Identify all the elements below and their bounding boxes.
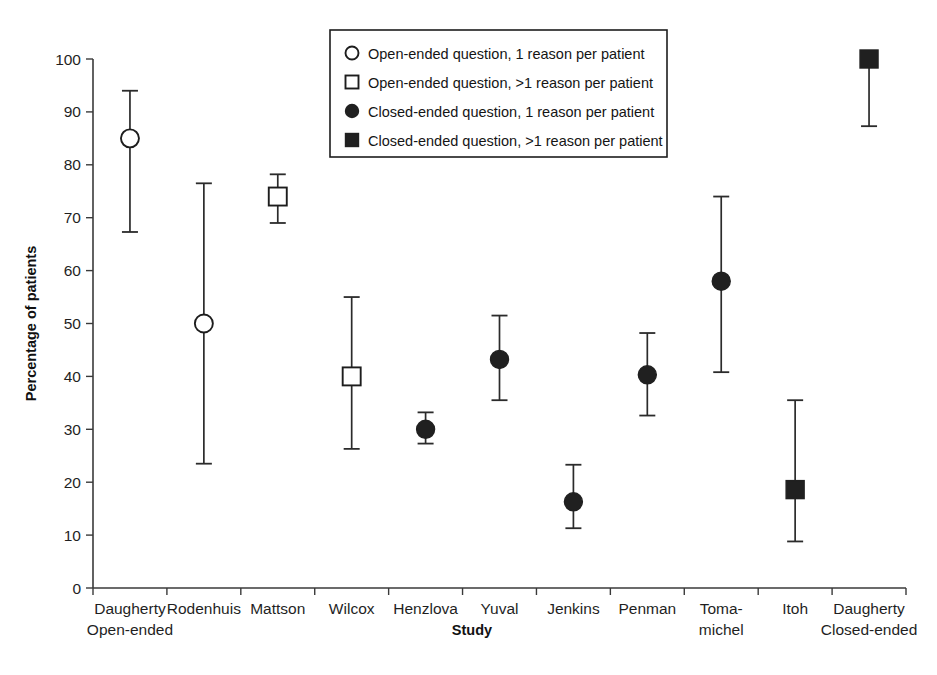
data-point-group [860, 50, 878, 126]
x-axis [93, 588, 906, 595]
y-tick-label: 0 [72, 580, 81, 597]
legend-item[interactable]: Closed-ended question, 1 reason per pati… [346, 104, 655, 120]
marker-closed-square [346, 134, 359, 147]
marker-closed-square [860, 50, 878, 68]
data-point-group [417, 412, 435, 443]
data-point-group [712, 197, 730, 373]
x-axis-title-text: Study [452, 622, 492, 638]
y-tick-label: 40 [64, 368, 82, 385]
y-axis: 0102030405060708090100 [55, 51, 93, 597]
x-tick-label: Itoh [782, 600, 808, 617]
legend-item[interactable]: Open-ended question, >1 reason per patie… [346, 75, 653, 91]
x-tick-label: Penman [618, 600, 676, 617]
data-point-group [195, 183, 213, 463]
y-tick-label: 80 [64, 156, 82, 173]
x-tick-label: Daugherty [94, 600, 166, 617]
marker-closed-square [786, 481, 804, 499]
data-point-group [638, 333, 656, 416]
marker-open-circle [195, 315, 213, 333]
x-tick-label-second-line: Open-ended [87, 621, 173, 638]
error-bar-chart: 0102030405060708090100 Percentage of pat… [0, 0, 937, 675]
x-tick-label: Rodenhuis [167, 600, 241, 617]
data-point-group [491, 316, 509, 401]
chart-container: 0102030405060708090100 Percentage of pat… [0, 0, 937, 675]
data-point-group [269, 174, 287, 223]
y-tick-label: 90 [64, 103, 82, 120]
legend-label: Open-ended question, >1 reason per patie… [368, 75, 653, 91]
data-point-group [343, 297, 361, 449]
marker-open-square [269, 188, 287, 206]
marker-open-circle [121, 129, 139, 147]
data-point-group [564, 465, 582, 528]
y-tick-label: 70 [64, 209, 82, 226]
marker-closed-circle [712, 272, 730, 290]
x-tick-label: Mattson [250, 600, 305, 617]
x-axis-tick-labels: DaughertyOpen-endedRodenhuisMattsonWilco… [87, 600, 917, 638]
y-tick-label: 100 [55, 51, 81, 68]
legend-label: Open-ended question, 1 reason per patien… [368, 46, 645, 62]
x-tick-label: Jenkins [547, 600, 600, 617]
data-point-group [121, 91, 139, 232]
y-tick-label: 10 [64, 527, 82, 544]
marker-closed-circle [346, 105, 359, 118]
marker-open-circle [346, 47, 359, 60]
y-axis-title-text: Percentage of patients [23, 246, 39, 402]
marker-closed-circle [491, 350, 509, 368]
chart-legend: Open-ended question, 1 reason per patien… [330, 30, 667, 157]
marker-open-square [346, 76, 359, 89]
x-tick-label: Toma- [700, 600, 743, 617]
x-tick-label: Henzlova [393, 600, 458, 617]
x-tick-label: Daugherty [833, 600, 905, 617]
y-tick-label: 50 [64, 315, 82, 332]
marker-open-square [343, 367, 361, 385]
x-tick-label-second-line: michel [699, 621, 744, 638]
x-tick-label: Wilcox [329, 600, 375, 617]
marker-closed-circle [417, 420, 435, 438]
legend-item[interactable]: Closed-ended question, >1 reason per pat… [346, 133, 663, 149]
legend-label: Closed-ended question, >1 reason per pat… [368, 133, 663, 149]
data-point-group [786, 400, 804, 541]
x-tick-label: Yuval [481, 600, 519, 617]
x-tick-label-second-line: Closed-ended [821, 621, 918, 638]
legend-item[interactable]: Open-ended question, 1 reason per patien… [346, 46, 645, 62]
y-tick-label: 30 [64, 421, 82, 438]
legend-label: Closed-ended question, 1 reason per pati… [368, 104, 654, 120]
y-tick-label: 20 [64, 474, 82, 491]
marker-closed-circle [564, 493, 582, 511]
marker-closed-circle [638, 366, 656, 384]
y-tick-label: 60 [64, 262, 82, 279]
x-axis-title: Study [452, 622, 492, 638]
y-axis-title: Percentage of patients [23, 246, 39, 402]
